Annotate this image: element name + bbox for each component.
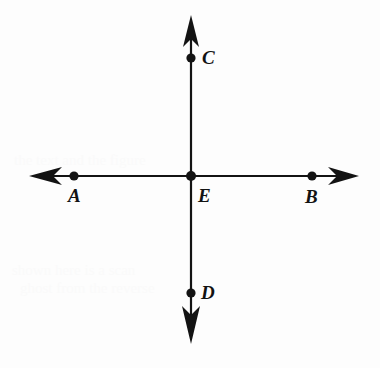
point-dot-B [307,171,316,180]
diagram-canvas [0,0,380,368]
point-dot-A [69,171,78,180]
point-dot-D [186,288,195,297]
point-label-C: C [202,48,215,67]
point-label-E: E [198,186,211,205]
point-label-B: B [305,187,318,206]
point-dot-E [186,171,196,181]
geometry-diagram: the text and the figure shown here is a … [0,0,380,368]
point-label-D: D [201,283,215,302]
point-dot-C [186,53,195,62]
point-label-A: A [68,186,81,205]
